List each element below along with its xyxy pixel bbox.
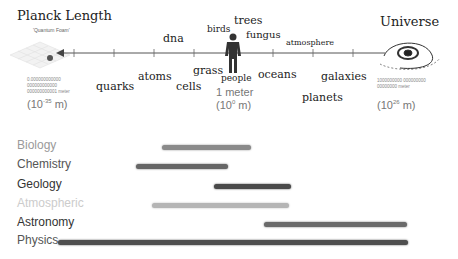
scale-word-atmosphere: atmosphere [286,38,334,47]
scale-word-galaxies: galaxies [321,70,367,83]
galaxy-icon [380,43,440,69]
discipline-label-biology: Biology [17,138,56,152]
discipline-bar-astronomy [264,222,407,227]
discipline-label-physics: Physics [17,233,58,247]
discipline-bar-atmospheric [152,203,289,208]
universe-digits: 1000000000 000000000 00000000 meter [377,78,427,90]
scale-word-planets: planets [302,91,343,104]
discipline-label-astronomy: Astronomy [17,215,74,229]
scale-word-trees: trees [234,14,262,27]
discipline-bar-physics [58,240,408,245]
quantum-foam-label: 'Quantum Foam' [33,27,70,33]
discipline-label-chemistry: Chemistry [17,157,71,171]
scale-word-dna: dna [163,32,184,45]
planck-digits: 0.000000000000 000000000000 000000000001… [27,77,85,95]
universe-title: Universe [380,14,439,29]
one-meter-exponent: (100 m) [216,99,251,111]
one-meter-label: 1 meter [216,86,253,98]
scale-word-fungus: fungus [246,29,281,40]
scale-word-people: people [221,73,251,83]
scale-word-quarks: quarks [96,80,134,93]
discipline-bar-biology [162,145,251,150]
discipline-label-atmospheric: Atmospheric [17,196,84,210]
scale-word-oceans: oceans [258,68,297,81]
scale-word-cells: cells [176,80,201,93]
discipline-label-geology: Geology [17,177,62,191]
scale-word-birds: birds [207,24,230,34]
planck-length-title: Planck Length [17,8,112,23]
discipline-bar-chemistry [136,164,228,169]
discipline-bar-geology [214,184,291,189]
universe-exponent: (1026 m) [377,99,415,111]
scale-word-atoms: atoms [138,70,172,83]
scale-word-grass: grass [193,64,223,77]
person-icon [225,34,241,74]
planck-exponent: (10-35 m) [27,98,67,110]
